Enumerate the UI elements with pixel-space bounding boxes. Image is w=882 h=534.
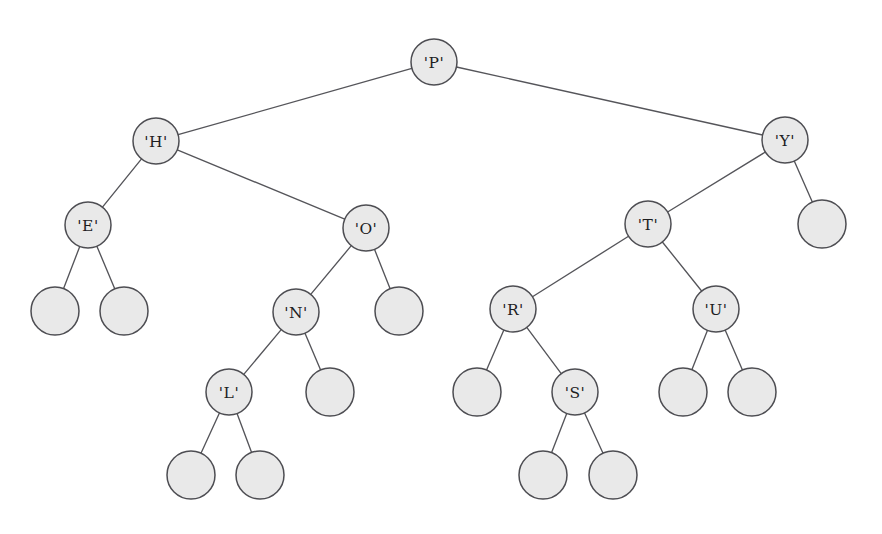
tree-leaf-node-leaf-S-left[interactable] [519,451,567,499]
leaf-circle [798,200,846,248]
leaf-circle [659,368,707,416]
tree-leaf-node-leaf-E-right[interactable] [100,287,148,335]
tree-edge-T-to-R [532,236,628,297]
tree-edge-E-to-leaf-E-left [64,246,80,288]
tree-node-U[interactable]: 'U' [693,286,739,332]
tree-edge-T-to-U [662,242,701,291]
leaf-circle [453,368,501,416]
leaf-circle [728,368,776,416]
tree-leaf-node-leaf-E-left[interactable] [31,287,79,335]
tree-leaf-node-leaf-O-right[interactable] [375,287,423,335]
leaf-circle [375,287,423,335]
tree-node-S[interactable]: 'S' [552,369,598,415]
tree-edge-L-to-leaf-L-left [201,413,219,453]
tree-node-T[interactable]: 'T' [625,201,671,247]
tree-leaf-node-leaf-R-left[interactable] [453,368,501,416]
tree-edge-E-to-leaf-E-right [97,246,115,289]
tree-node-P[interactable]: 'P' [411,39,457,85]
node-label-H: 'H' [144,133,168,151]
node-label-E: 'E' [77,217,98,235]
node-label-U: 'U' [704,301,727,319]
tree-edge-H-to-O [177,150,345,219]
node-label-P: 'P' [424,54,444,72]
node-label-S: 'S' [565,384,586,402]
tree-edge-P-to-Y [456,67,762,135]
tree-edge-Y-to-T [668,152,766,212]
tree-edge-U-to-leaf-U-left [692,330,708,369]
tree-edge-O-to-N [311,246,352,295]
tree-edge-N-to-leaf-N-right [305,333,321,370]
tree-node-R[interactable]: 'R' [490,286,536,332]
tree-leaf-node-leaf-Y-right[interactable] [798,200,846,248]
tree-edge-N-to-L [244,330,281,375]
leaf-circle [167,451,215,499]
tree-edge-U-to-leaf-U-right [725,330,742,370]
tree-canvas: 'P''H''Y''E''O''T''N''R''U''L''S' [0,0,882,534]
tree-edge-O-to-leaf-O-right [375,249,391,288]
tree-node-O[interactable]: 'O' [343,205,389,251]
node-label-R: 'R' [502,301,524,319]
nodes-layer: 'P''H''Y''E''O''T''N''R''U''L''S' [31,39,846,499]
tree-leaf-node-leaf-L-left[interactable] [167,451,215,499]
tree-node-N[interactable]: 'N' [273,289,319,335]
tree-edge-R-to-leaf-R-left [487,330,504,370]
leaf-circle [519,451,567,499]
tree-edge-H-to-E [102,159,141,207]
tree-node-E[interactable]: 'E' [65,202,111,248]
node-label-O: 'O' [355,220,378,238]
leaf-circle [589,451,637,499]
tree-edge-S-to-leaf-S-right [585,413,603,453]
tree-node-H[interactable]: 'H' [133,118,179,164]
tree-edge-R-to-S [527,327,561,373]
tree-edge-P-to-H [178,68,412,134]
tree-leaf-node-leaf-U-left[interactable] [659,368,707,416]
leaf-circle [100,287,148,335]
node-label-L: 'L' [219,384,239,402]
tree-leaf-node-leaf-S-right[interactable] [589,451,637,499]
tree-leaf-node-leaf-U-right[interactable] [728,368,776,416]
tree-leaf-node-leaf-L-right[interactable] [236,451,284,499]
tree-edge-S-to-leaf-S-left [552,413,567,452]
node-label-Y: 'Y' [775,132,795,150]
tree-edge-L-to-leaf-L-right [237,414,252,453]
leaf-circle [236,451,284,499]
node-label-N: 'N' [284,304,308,322]
tree-node-L[interactable]: 'L' [206,369,252,415]
tree-edge-Y-to-leaf-Y-right [794,161,812,202]
tree-node-Y[interactable]: 'Y' [762,117,808,163]
binary-tree-diagram: 'P''H''Y''E''O''T''N''R''U''L''S' [0,0,882,534]
leaf-circle [31,287,79,335]
tree-leaf-node-leaf-N-right[interactable] [306,368,354,416]
node-label-T: 'T' [638,216,658,234]
leaf-circle [306,368,354,416]
